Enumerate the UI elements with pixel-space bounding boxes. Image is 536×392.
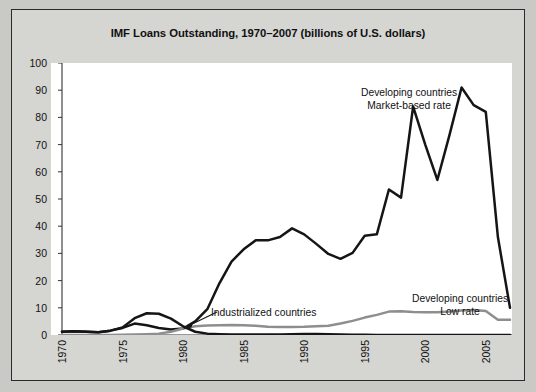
annotation-market-line1: Developing countries	[361, 87, 457, 100]
x-tick-label: 1975	[117, 340, 129, 363]
x-tick-label: 1970	[56, 340, 68, 363]
y-tick-label: 30	[21, 247, 47, 259]
annotation-market-line2: Market-based rate	[361, 100, 457, 113]
x-tick-label: 2005	[480, 340, 492, 363]
y-tick-label: 80	[21, 111, 47, 123]
y-axis-labels: 0102030405060708090100	[17, 63, 47, 335]
annotation-low-line1: Developing countries	[412, 293, 508, 306]
annotation-market-based: Developing countries Market-based rate	[361, 87, 457, 112]
page-title: IMF Loans Outstanding, 1970–2007 (billio…	[12, 27, 524, 39]
x-tick-label: 1990	[298, 340, 310, 363]
x-axis-labels: 19701975198019851990199520002005	[51, 340, 512, 386]
y-tick-label: 50	[21, 193, 47, 205]
annotation-industrialized: Industrialized countries	[211, 307, 316, 320]
annotation-low-rate: Developing countries Low rate	[412, 293, 508, 318]
y-tick-label: 40	[21, 220, 47, 232]
x-tick-label: 1985	[238, 340, 250, 363]
y-tick-label: 10	[21, 302, 47, 314]
y-tick-label: 100	[21, 57, 47, 69]
y-tick-label: 20	[21, 275, 47, 287]
annotation-arrow-icon	[177, 310, 219, 332]
chart-figure: IMF Loans Outstanding, 1970–2007 (billio…	[11, 9, 525, 381]
x-tick-label: 1995	[359, 340, 371, 363]
y-tick-label: 0	[21, 329, 47, 341]
x-tick-label: 2000	[419, 340, 431, 363]
y-tick-label: 60	[21, 166, 47, 178]
y-tick-label: 70	[21, 139, 47, 151]
y-tick-label: 90	[21, 84, 47, 96]
x-tick-label: 1980	[177, 340, 189, 363]
annotation-low-line2: Low rate	[412, 306, 508, 319]
